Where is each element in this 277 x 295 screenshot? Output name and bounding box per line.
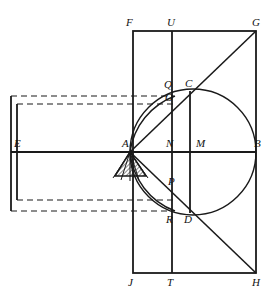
label-point-Q: Q xyxy=(164,79,172,90)
label-point-E: E xyxy=(14,138,21,149)
diagonal-AH xyxy=(130,152,256,273)
label-point-D: D xyxy=(184,214,192,225)
label-point-M: M xyxy=(196,138,205,149)
label-point-J: J xyxy=(128,277,133,288)
label-point-C: C xyxy=(185,78,192,89)
diagonal-AG xyxy=(130,31,256,152)
label-point-T: T xyxy=(167,277,173,288)
label-point-O: O xyxy=(165,92,173,103)
label-point-B: B xyxy=(254,138,261,149)
geometric-diagram: F U G Q C O E A N M B P R D J T H xyxy=(0,0,277,295)
label-point-R: R xyxy=(166,214,173,225)
label-point-U: U xyxy=(167,17,175,28)
label-point-F: F xyxy=(126,17,133,28)
label-point-H: H xyxy=(252,277,260,288)
figure-canvas xyxy=(0,0,277,295)
label-point-N: N xyxy=(166,138,173,149)
label-point-G: G xyxy=(252,17,260,28)
shaded-triangle-group xyxy=(113,152,148,181)
label-point-A: A xyxy=(122,138,129,149)
label-point-P: P xyxy=(168,176,175,187)
